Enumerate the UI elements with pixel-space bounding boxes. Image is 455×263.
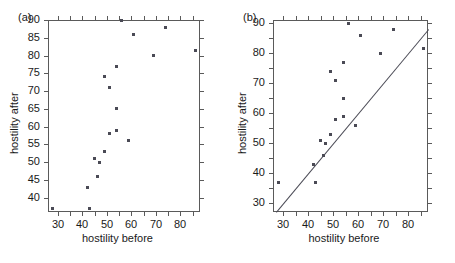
scatter-figure: (a) hostility after hostility before 404… bbox=[0, 0, 455, 263]
data-point bbox=[392, 28, 395, 31]
y-tick-label: 90 bbox=[237, 16, 265, 28]
x-tick-bottom bbox=[95, 212, 96, 216]
data-point bbox=[342, 115, 345, 118]
y-tick-label: 85 bbox=[12, 31, 40, 43]
data-point bbox=[322, 154, 325, 157]
y-tick-left bbox=[269, 113, 273, 114]
x-tick-top bbox=[156, 16, 157, 20]
y-tick-right bbox=[428, 23, 432, 24]
x-tick-bottom bbox=[131, 212, 132, 216]
x-tick-top bbox=[144, 16, 145, 20]
data-point bbox=[132, 33, 135, 36]
data-point bbox=[342, 61, 345, 64]
x-tick-bottom bbox=[371, 212, 372, 216]
data-point bbox=[115, 107, 118, 110]
x-tick-top bbox=[383, 16, 384, 20]
y-tick-right bbox=[200, 91, 204, 92]
y-tick-label: 90 bbox=[12, 13, 40, 25]
x-tick-top bbox=[408, 16, 409, 20]
y-tick-right bbox=[200, 198, 204, 199]
y-tick-left bbox=[269, 203, 273, 204]
x-tick-bottom bbox=[82, 212, 83, 216]
y-tick-right bbox=[428, 173, 432, 174]
y-tick-right bbox=[200, 144, 204, 145]
y-tick-label: 50 bbox=[12, 155, 40, 167]
y-tick-left bbox=[269, 128, 273, 129]
x-tick-top bbox=[107, 16, 108, 20]
data-point bbox=[88, 207, 91, 210]
y-tick-left bbox=[44, 91, 48, 92]
x-tick-bottom bbox=[156, 212, 157, 216]
x-tick-bottom bbox=[383, 212, 384, 216]
x-tick-label: 80 bbox=[166, 218, 194, 230]
data-point bbox=[334, 79, 337, 82]
y-tick-right bbox=[200, 162, 204, 163]
data-point bbox=[342, 97, 345, 100]
x-tick-bottom bbox=[358, 212, 359, 216]
x-tick-bottom bbox=[308, 212, 309, 216]
panel-b-plot-area bbox=[273, 20, 428, 212]
x-tick-top bbox=[396, 16, 397, 20]
y-tick-left bbox=[269, 38, 273, 39]
y-tick-left bbox=[269, 98, 273, 99]
data-point bbox=[164, 26, 167, 29]
y-tick-left bbox=[44, 144, 48, 145]
x-tick-top bbox=[283, 16, 284, 20]
x-tick-top bbox=[371, 16, 372, 20]
y-tick-label: 55 bbox=[12, 137, 40, 149]
data-point bbox=[152, 54, 155, 57]
data-point bbox=[103, 75, 106, 78]
y-tick-left bbox=[269, 83, 273, 84]
data-point bbox=[359, 34, 362, 37]
x-tick-bottom bbox=[119, 212, 120, 216]
y-tick-right bbox=[428, 188, 432, 189]
x-tick-label: 60 bbox=[344, 218, 372, 230]
y-tick-label: 60 bbox=[12, 120, 40, 132]
data-point bbox=[312, 163, 315, 166]
y-tick-left bbox=[44, 20, 48, 21]
x-tick-top bbox=[82, 16, 83, 20]
y-tick-left bbox=[269, 173, 273, 174]
data-point bbox=[329, 133, 332, 136]
x-tick-bottom bbox=[70, 212, 71, 216]
y-tick-left bbox=[44, 198, 48, 199]
x-tick-top bbox=[346, 16, 347, 20]
x-tick-bottom bbox=[333, 212, 334, 216]
x-tick-label: 60 bbox=[117, 218, 145, 230]
x-tick-top bbox=[421, 16, 422, 20]
y-tick-label: 45 bbox=[12, 173, 40, 185]
x-tick-bottom bbox=[421, 212, 422, 216]
y-tick-left bbox=[44, 127, 48, 128]
x-tick-bottom bbox=[408, 212, 409, 216]
data-point bbox=[422, 47, 425, 50]
x-tick-bottom bbox=[283, 212, 284, 216]
x-tick-bottom bbox=[321, 212, 322, 216]
y-tick-label: 65 bbox=[12, 102, 40, 114]
y-tick-left bbox=[269, 68, 273, 69]
data-point bbox=[108, 132, 111, 135]
y-tick-label: 70 bbox=[12, 84, 40, 96]
y-tick-right bbox=[200, 109, 204, 110]
y-tick-left bbox=[269, 143, 273, 144]
y-tick-right bbox=[428, 143, 432, 144]
y-tick-right bbox=[200, 20, 204, 21]
y-tick-right bbox=[200, 73, 204, 74]
data-point bbox=[120, 19, 123, 22]
y-tick-left bbox=[44, 38, 48, 39]
y-tick-left bbox=[44, 109, 48, 110]
data-point bbox=[115, 65, 118, 68]
y-tick-right bbox=[200, 56, 204, 57]
x-tick-bottom bbox=[193, 212, 194, 216]
x-tick-label: 70 bbox=[369, 218, 397, 230]
x-tick-top bbox=[296, 16, 297, 20]
x-tick-top bbox=[180, 16, 181, 20]
y-tick-right bbox=[200, 38, 204, 39]
y-tick-label: 40 bbox=[12, 191, 40, 203]
panel-b-x-axis-title: hostility before bbox=[309, 232, 380, 244]
data-point bbox=[96, 175, 99, 178]
x-tick-top bbox=[193, 16, 194, 20]
panel-a-x-axis-title: hostility before bbox=[82, 232, 153, 244]
y-tick-right bbox=[428, 68, 432, 69]
y-tick-left bbox=[44, 56, 48, 57]
y-tick-left bbox=[44, 162, 48, 163]
